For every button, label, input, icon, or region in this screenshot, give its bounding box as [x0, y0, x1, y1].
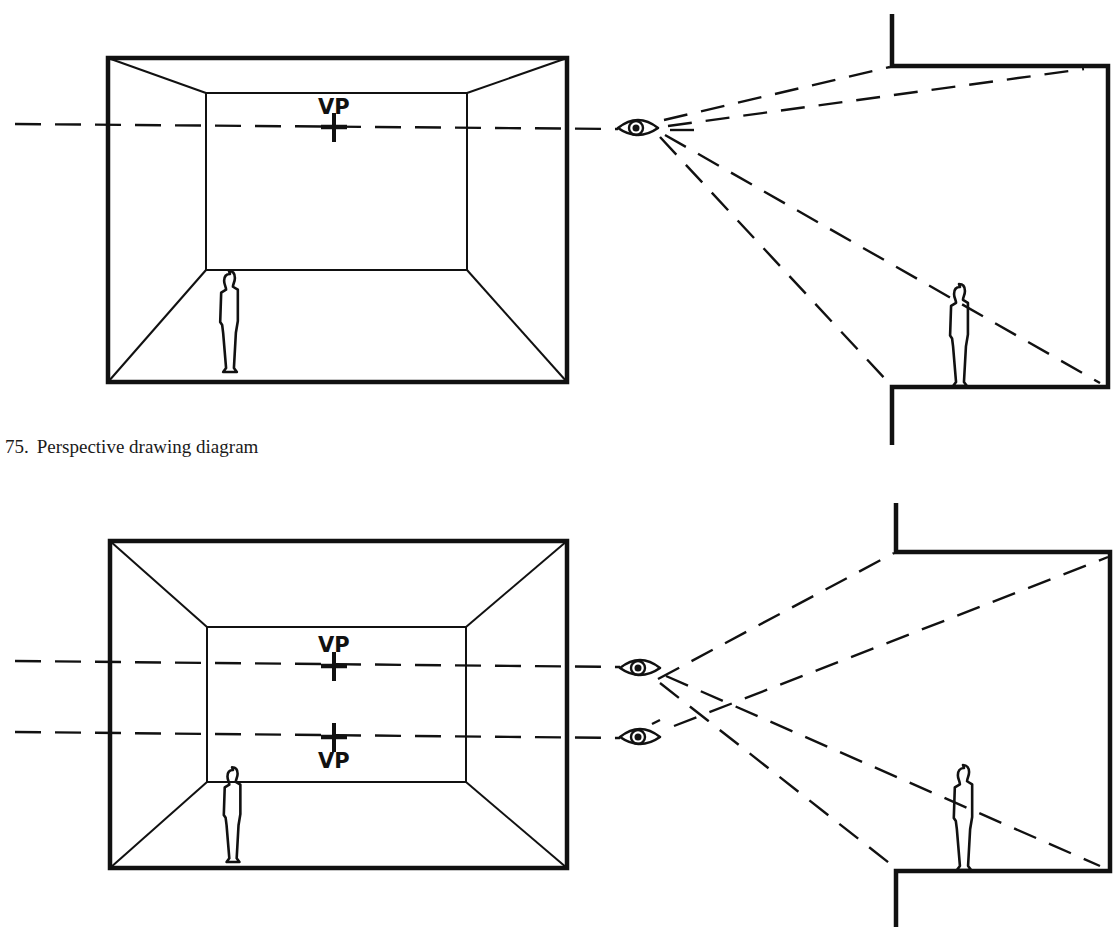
person-figure-front: [220, 271, 238, 372]
sight-line: [15, 732, 620, 738]
room-edge: [466, 782, 567, 868]
room-section: [896, 503, 1110, 927]
room-edge: [467, 270, 567, 382]
vp-label: VP: [318, 633, 350, 657]
figure-76: VPVP: [15, 503, 1110, 927]
view-ray: [674, 557, 1108, 726]
view-ray: [658, 553, 894, 679]
view-ray: [664, 67, 890, 120]
person-figure-section: [954, 765, 972, 870]
room-edge: [110, 541, 207, 627]
room-edge: [108, 58, 206, 93]
figures-layer: VPVPVP: [15, 14, 1110, 927]
eye-pupil: [635, 665, 642, 672]
view-ray: [665, 135, 1100, 383]
diagram-canvas: VPVPVP: [0, 0, 1115, 936]
room-edge: [108, 270, 206, 382]
caption-number: 75.: [5, 436, 29, 457]
sight-line: [15, 661, 620, 667]
view-ray: [652, 720, 660, 724]
view-ray: [668, 69, 1084, 126]
eye-pupil: [635, 734, 642, 741]
back-wall: [206, 93, 467, 270]
person-figure-section: [950, 284, 968, 386]
vanishing-point: VP: [318, 723, 350, 773]
room-section: [892, 14, 1108, 445]
eye-icon: [620, 729, 660, 744]
eye-icon: [618, 120, 658, 135]
caption-figure-75: 75.Perspective drawing diagram: [5, 436, 258, 458]
eye-icon: [620, 660, 660, 675]
vanishing-point: VP: [318, 95, 350, 142]
view-ray: [660, 137, 888, 382]
caption-text: Perspective drawing diagram: [37, 436, 259, 457]
room-edge: [110, 782, 207, 868]
room-edge: [466, 541, 567, 627]
vp-label: VP: [318, 749, 350, 773]
eye-pupil: [633, 125, 640, 132]
vp-label: VP: [318, 95, 350, 119]
figure-75: VP: [15, 14, 1108, 445]
view-ray: [660, 683, 893, 866]
vanishing-point: VP: [318, 633, 350, 681]
sight-line: [15, 124, 618, 129]
room-edge: [467, 58, 567, 93]
room-frame: [110, 541, 567, 868]
